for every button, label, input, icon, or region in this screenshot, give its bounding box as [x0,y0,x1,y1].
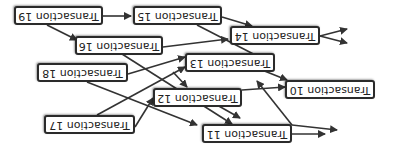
node-transaction-16[interactable]: Transaction 16 [75,36,163,55]
node-label: Transaction 17 [49,119,129,132]
node-transaction-12[interactable]: Transaction 12 [153,88,242,107]
node-transaction-13[interactable]: Transaction 13 [185,53,275,72]
node-label: Transaction 18 [42,67,122,80]
node-label: Transaction 13 [190,57,270,70]
node-label: Transaction 14 [235,30,315,43]
node-transaction-14[interactable]: Transaction 14 [230,26,320,45]
node-transaction-17[interactable]: Transaction 17 [44,115,135,134]
node-transaction-11[interactable]: Transaction 11 [202,124,292,143]
node-label: Transaction 19 [18,10,98,23]
node-transaction-15[interactable]: Transaction 15 [133,6,222,25]
node-label: Transaction 15 [137,10,217,23]
transaction-dependency-diagram: Transaction 19 Transaction 15 Transactio… [0,0,417,155]
node-label: Transaction 11 [207,128,287,141]
node-transaction-18[interactable]: Transaction 18 [37,63,128,82]
node-transaction-19[interactable]: Transaction 19 [14,6,103,25]
node-transaction-10[interactable]: Transaction 10 [285,80,375,99]
node-label: Transaction 12 [157,92,237,105]
node-label: Transaction 16 [79,40,159,53]
node-label: Transaction 10 [290,84,370,97]
